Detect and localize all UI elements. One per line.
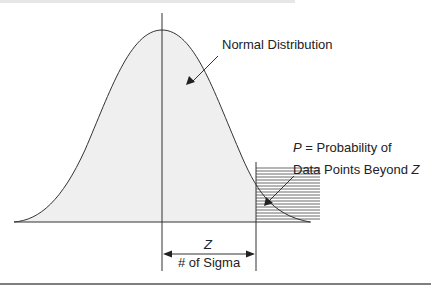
tail-label-line2-text: Data Points Beyond (293, 162, 412, 177)
arrowhead-left-icon (163, 251, 172, 258)
arrowhead-right-icon (246, 251, 255, 258)
tail-label-line1: P = Probability of (293, 141, 392, 154)
curve-label: Normal Distribution (222, 38, 333, 51)
z-label: Z (204, 238, 212, 251)
tail-label-line2: Data Points Beyond Z (293, 163, 419, 176)
tail-label-var-p: P (293, 140, 302, 155)
tail-label-var-z: Z (412, 162, 420, 177)
cropped-text-remnant (0, 0, 295, 3)
sigma-label: # of Sigma (178, 256, 240, 269)
tail-label-line1-text: = Probability of (302, 140, 392, 155)
